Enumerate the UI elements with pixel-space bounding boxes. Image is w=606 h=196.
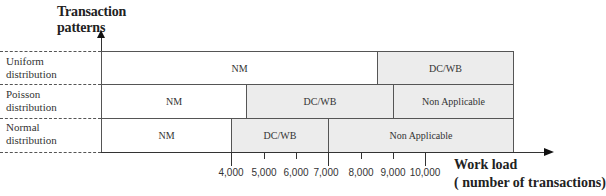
- y-axis-title-line2: patterns: [57, 20, 126, 36]
- row-label-line2: distribution: [6, 68, 57, 81]
- segment-poisson-dcwb: DC/WB: [246, 84, 394, 119]
- row-label-uniform: Uniform distribution: [6, 55, 57, 81]
- segment-poisson-non-applicable: Non Applicable: [393, 84, 514, 119]
- segment-label: NM: [231, 63, 247, 74]
- row-label-normal: Normal distribution: [6, 121, 57, 147]
- row-label-line1: Poisson: [6, 88, 57, 101]
- segment-label: NM: [166, 96, 182, 107]
- x-tick-label: 10,000: [410, 167, 441, 178]
- y-axis-title-line1: Transaction: [57, 4, 126, 20]
- x-tick: [328, 152, 329, 166]
- segment-label: DC/WB: [304, 96, 337, 107]
- x-tick: [231, 152, 232, 166]
- segment-poisson-nm: NM: [101, 84, 247, 119]
- x-axis: [101, 152, 546, 153]
- x-axis-title: Work load ( number of transactions): [454, 156, 606, 192]
- row-label-line1: Normal: [6, 121, 57, 134]
- x-tick-label: 6,000: [283, 167, 308, 178]
- y-axis-arrow-icon: [97, 30, 105, 38]
- segment-uniform-dcwb: DC/WB: [377, 51, 514, 85]
- segment-label: NM: [158, 130, 174, 141]
- row-label-line2: distribution: [6, 134, 57, 147]
- segment-normal-nm: NM: [101, 118, 232, 153]
- x-tick: [361, 152, 362, 159]
- segment-normal-non-applicable: Non Applicable: [328, 118, 514, 153]
- segment-normal-dcwb: DC/WB: [231, 118, 329, 153]
- segment-label: Non Applicable: [389, 130, 452, 141]
- y-axis-title: Transaction patterns: [57, 4, 126, 36]
- row-label-poisson: Poisson distribution: [6, 88, 57, 114]
- x-tick-label: 5,000: [251, 167, 276, 178]
- segment-label: DC/WB: [264, 130, 297, 141]
- x-tick: [425, 152, 426, 166]
- x-tick: [393, 152, 394, 159]
- x-tick-label: 7,000: [313, 167, 338, 178]
- x-tick: [296, 152, 297, 159]
- segment-label: Non Applicable: [422, 96, 485, 107]
- x-tick-label: 8,000: [348, 167, 373, 178]
- x-tick: [264, 152, 265, 159]
- row-label-line1: Uniform: [6, 55, 57, 68]
- x-axis-arrow-icon: [544, 148, 554, 156]
- x-axis-title-line2: ( number of transactions): [454, 174, 606, 192]
- row-separator: [0, 51, 101, 52]
- row-separator: [0, 118, 101, 119]
- row-separator: [0, 84, 101, 85]
- x-tick-label: 4,000: [218, 167, 243, 178]
- segment-label: DC/WB: [429, 63, 462, 74]
- row-separator: [0, 152, 101, 153]
- row-label-line2: distribution: [6, 101, 57, 114]
- x-tick-label: 9,000: [380, 167, 405, 178]
- x-axis-title-line1: Work load: [454, 156, 606, 174]
- segment-uniform-nm: NM: [101, 51, 378, 85]
